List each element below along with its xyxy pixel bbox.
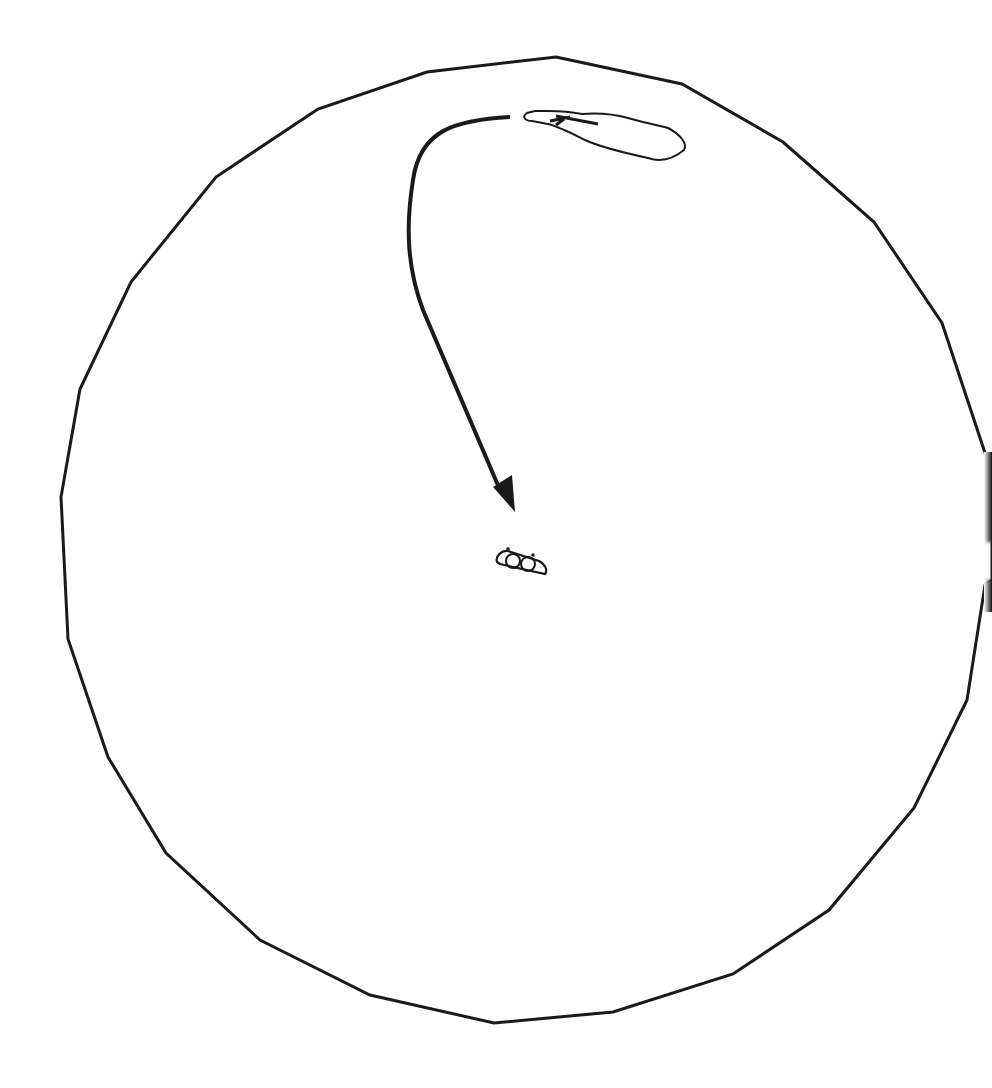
center-object-icon	[497, 547, 547, 574]
island-marks	[550, 116, 598, 125]
right-edge-shadow	[984, 452, 992, 612]
island-shape	[524, 111, 685, 160]
arrow-curve	[409, 117, 510, 490]
circular-boundary	[61, 57, 992, 1023]
diagram-svg	[0, 0, 992, 1088]
